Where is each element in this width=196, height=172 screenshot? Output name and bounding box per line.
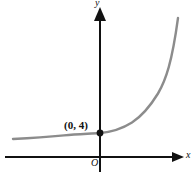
origin-label: O xyxy=(91,158,98,168)
coordinate-plane-svg xyxy=(0,0,196,172)
y-axis-label: y xyxy=(95,0,99,8)
x-axis-label: x xyxy=(186,150,190,160)
exponential-curve xyxy=(13,18,178,139)
y-axis-arrowhead xyxy=(94,7,106,21)
exponential-graph-figure: y x O (0, 4) xyxy=(0,0,196,172)
point-coordinate-label: (0, 4) xyxy=(64,120,88,131)
point-marker-0-4 xyxy=(97,130,104,137)
x-axis-arrowhead xyxy=(172,152,184,162)
